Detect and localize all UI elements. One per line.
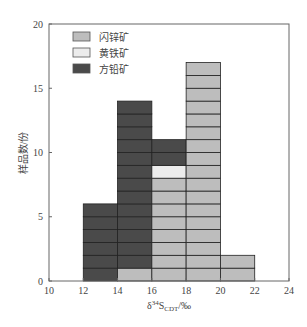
bar-cell: [186, 101, 220, 114]
histogram-chart: 05101520 1012141618202224 闪锌矿 黄铁矿 方铅矿 样品…: [0, 0, 307, 327]
bar-cell: [186, 255, 220, 268]
bar-cell: [152, 153, 186, 166]
bar-cell: [220, 255, 254, 268]
x-tick-label: 12: [78, 285, 88, 296]
bar-cell: [152, 191, 186, 204]
bar-cell: [152, 217, 186, 230]
bar-cell: [83, 230, 117, 243]
bar-cell: [118, 230, 152, 243]
bar-cell: [118, 114, 152, 127]
bars-group: [83, 63, 254, 281]
x-tick-label: 10: [44, 285, 54, 296]
legend-label-sphalerite: 闪锌矿: [99, 31, 129, 43]
bar-cell: [152, 242, 186, 255]
bar-cell: [83, 242, 117, 255]
bar-cell: [118, 153, 152, 166]
bar-cell: [186, 191, 220, 204]
bar-cell: [118, 101, 152, 114]
bar-cell: [118, 165, 152, 178]
legend: 闪锌矿 黄铁矿 方铅矿: [73, 31, 129, 75]
bar-cell: [186, 230, 220, 243]
y-tick-label: 15: [33, 83, 43, 94]
bar-cell: [118, 204, 152, 217]
bar-cell: [152, 165, 186, 178]
x-tick-label: 24: [284, 285, 294, 296]
bar-cell: [152, 230, 186, 243]
bar-cell: [186, 140, 220, 153]
bar-cell: [118, 140, 152, 153]
y-tick-label: 5: [38, 211, 43, 222]
legend-swatch-galena: [73, 64, 90, 73]
bar-cell: [118, 217, 152, 230]
bar-cell: [186, 114, 220, 127]
bar-cell: [118, 268, 152, 281]
bar-cell: [118, 191, 152, 204]
bar-cell: [118, 255, 152, 268]
legend-swatch-sphalerite: [73, 32, 90, 41]
legend-label-galena: 方铅矿: [99, 63, 129, 75]
bar-cell: [152, 204, 186, 217]
bar-cell: [186, 127, 220, 140]
bar-cell: [152, 140, 186, 153]
y-tick-label: 20: [33, 19, 43, 30]
bar-cell: [220, 268, 254, 281]
bar-cell: [83, 255, 117, 268]
x-tick-label: 22: [250, 285, 260, 296]
bar-cell: [118, 178, 152, 191]
x-tick-label: 18: [181, 285, 191, 296]
legend-swatch-pyrite: [73, 48, 90, 57]
bar-cell: [186, 242, 220, 255]
x-axis-label: δ34SCDT/‰: [147, 299, 191, 313]
y-tick-label: 10: [33, 147, 43, 158]
y-tick-label: 0: [38, 276, 43, 287]
bar-cell: [186, 165, 220, 178]
bar-cell: [152, 268, 186, 281]
bar-cell: [186, 153, 220, 166]
bar-cell: [186, 204, 220, 217]
y-axis-label: 样品数/份: [17, 132, 29, 175]
x-tick-label: 14: [113, 285, 123, 296]
bar-cell: [118, 127, 152, 140]
bar-cell: [186, 217, 220, 230]
bar-cell: [186, 75, 220, 88]
bar-cell: [152, 255, 186, 268]
bar-cell: [152, 178, 186, 191]
bar-cell: [83, 268, 117, 281]
bar-cell: [83, 204, 117, 217]
bar-cell: [83, 217, 117, 230]
bar-cell: [186, 63, 220, 76]
legend-label-pyrite: 黄铁矿: [99, 47, 129, 59]
x-tick-label: 16: [147, 285, 157, 296]
bar-cell: [186, 178, 220, 191]
bar-cell: [186, 88, 220, 101]
bar-cell: [186, 268, 220, 281]
x-tick-label: 20: [215, 285, 225, 296]
bar-cell: [118, 242, 152, 255]
